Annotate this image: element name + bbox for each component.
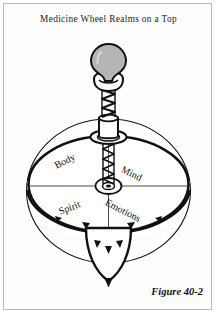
figure-caption: Figure 40-2 [151, 286, 203, 297]
cone-tip [86, 228, 131, 281]
cone-tip-point [105, 278, 112, 286]
center-washer-hole [106, 184, 111, 187]
spiral-shaft-upper [102, 90, 115, 117]
figure-page: Medicine Wheel Realms on a Top [0, 0, 217, 315]
spinning-top-illustration [0, 0, 217, 315]
